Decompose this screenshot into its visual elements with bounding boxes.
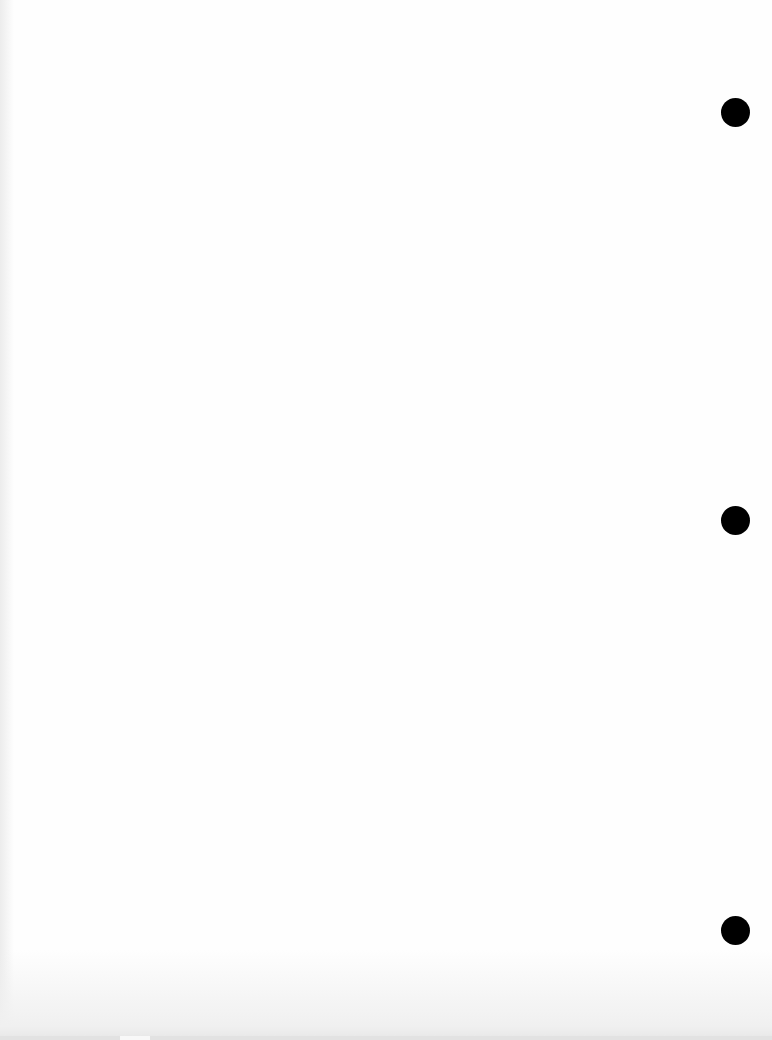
punch-hole-icon	[721, 916, 750, 945]
bottom-shading	[0, 950, 772, 1040]
bottom-edge	[0, 1036, 772, 1040]
bottom-edge-highlight	[120, 1036, 150, 1040]
punch-hole-icon	[721, 98, 750, 127]
blank-page	[0, 0, 772, 1040]
left-edge-shadow	[0, 0, 14, 1040]
punch-hole-icon	[721, 506, 750, 535]
